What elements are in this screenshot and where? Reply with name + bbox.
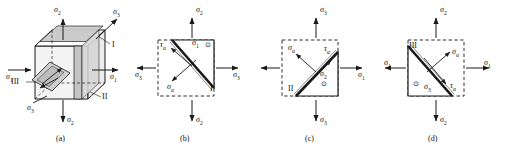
- d-sigma-1-right: σ1: [484, 59, 491, 69]
- stress-element-figure: σ2 σ3 I σ1 σ1 III II σ3 σ2 (a) σ2 τα σ1 …: [0, 0, 511, 150]
- c-sigma-2-inside: σ2: [320, 70, 327, 80]
- a-sigma-3-top-right: σ3: [113, 8, 120, 18]
- a-plane-III-label: III: [11, 78, 19, 86]
- b-tau-alpha: τα: [160, 41, 166, 51]
- d-sigma-2-top: σ2: [440, 6, 447, 16]
- c-sigma-3-top: σ3: [320, 6, 327, 16]
- d-plane-III-label: III: [409, 42, 417, 50]
- c-tau-alpha: τα: [324, 45, 330, 55]
- figure-vector-canvas: [0, 0, 511, 150]
- a-plane-II-label: II: [102, 93, 107, 101]
- b-out-of-plane-dot-icon: ⊙: [205, 42, 211, 49]
- c-out-of-plane-dot-icon: ⊙: [321, 81, 327, 88]
- a-sigma-1-right: σ1: [110, 73, 117, 83]
- panel-a-geometry: [8, 19, 118, 122]
- panel-b-geometry: [137, 18, 238, 121]
- panel-b-caption: (b): [180, 134, 189, 143]
- panel-d-caption: (d): [428, 134, 437, 143]
- d-out-of-plane-dot-icon: ⊙: [413, 81, 419, 88]
- d-sigma-3-inside: σ3: [424, 83, 431, 93]
- d-sigma-alpha: σα: [452, 48, 459, 58]
- b-sigma-2-top: σ2: [196, 6, 203, 16]
- panel-c-caption: (c): [305, 134, 314, 143]
- a-plane-I-label: I: [112, 41, 115, 49]
- b-sigma-3-right: σ3: [233, 71, 240, 81]
- panel-a-caption: (a): [56, 134, 65, 143]
- b-sigma-3-left: σ3: [135, 71, 142, 81]
- c-sigma-3-bottom: σ3: [320, 116, 327, 126]
- c-sigma-alpha: σα: [288, 44, 295, 54]
- d-sigma-2-bottom: σ2: [440, 116, 447, 126]
- a-sigma-3-bottom-left: σ3: [27, 104, 34, 114]
- c-plane-II-label: II: [288, 85, 293, 93]
- d-sigma-1-left: σ1: [384, 59, 391, 69]
- panel-c-geometry: [261, 18, 362, 121]
- a-sigma-2-top: σ2: [54, 6, 61, 16]
- b-sigma-2-bottom: σ2: [196, 116, 203, 126]
- d-tau-alpha: τα: [450, 82, 456, 92]
- a-sigma-2-bottom: σ2: [67, 116, 74, 126]
- c-sigma-1-right: σ1: [358, 71, 365, 81]
- b-sigma-alpha: σα: [167, 83, 174, 93]
- b-plane-I-label: I: [210, 85, 213, 93]
- b-sigma-1-inside: σ1: [192, 39, 199, 49]
- panel-d-geometry: [385, 18, 489, 121]
